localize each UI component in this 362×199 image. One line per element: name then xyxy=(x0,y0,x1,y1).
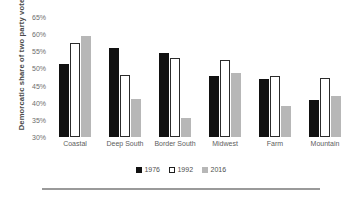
legend-item[interactable]: 1992 xyxy=(169,166,193,173)
legend-label: 2016 xyxy=(211,166,227,173)
bar-1992[interactable] xyxy=(70,43,80,137)
y-axis-tick-label: 50% xyxy=(20,65,46,72)
y-axis-tick-label: 35% xyxy=(20,116,46,123)
legend-label: 1976 xyxy=(144,166,160,173)
bar-groups xyxy=(50,17,350,137)
chart-legend: 197619922016 xyxy=(0,166,362,173)
bar-1992[interactable] xyxy=(270,76,280,137)
bar-1992[interactable] xyxy=(220,60,230,137)
x-axis-tick-label: Border South xyxy=(150,140,200,147)
legend-item[interactable]: 1976 xyxy=(136,166,160,173)
legend-item[interactable]: 2016 xyxy=(202,166,226,173)
plot-area: 30%35%40%45%50%55%60%65% xyxy=(50,17,350,137)
bar-1976[interactable] xyxy=(159,53,169,137)
legend-label: 1992 xyxy=(177,166,193,173)
bar-1976[interactable] xyxy=(59,64,69,137)
bar-2016[interactable] xyxy=(181,118,191,137)
chart-figure: Demorcatic share of two party vote 30%35… xyxy=(0,0,362,199)
bar-1992[interactable] xyxy=(170,58,180,137)
x-axis-tick-label: Midwest xyxy=(200,140,250,147)
bar-group xyxy=(50,17,100,137)
filled-gray-square-icon xyxy=(202,167,208,173)
bar-1976[interactable] xyxy=(209,76,219,137)
bar-1976[interactable] xyxy=(109,48,119,137)
y-axis-tick-label: 30% xyxy=(20,134,46,141)
bar-group xyxy=(250,17,300,137)
x-axis-tick-label: Farm xyxy=(250,140,300,147)
bar-2016[interactable] xyxy=(331,96,341,137)
filled-black-square-icon xyxy=(136,167,142,173)
bar-2016[interactable] xyxy=(131,99,141,137)
bar-group xyxy=(150,17,200,137)
x-axis-tick-label: Deep South xyxy=(100,140,150,147)
x-axis-tick-labels: CoastalDeep SouthBorder SouthMidwestFarm… xyxy=(50,140,350,147)
bar-2016[interactable] xyxy=(81,36,91,137)
bar-1992[interactable] xyxy=(120,75,130,137)
y-axis-tick-label: 45% xyxy=(20,82,46,89)
bar-group xyxy=(200,17,250,137)
y-axis-tick-label: 40% xyxy=(20,99,46,106)
bar-group xyxy=(100,17,150,137)
bar-1992[interactable] xyxy=(320,78,330,137)
bar-2016[interactable] xyxy=(281,106,291,137)
outlined-white-square-icon xyxy=(169,167,175,173)
y-axis-tick-label: 55% xyxy=(20,48,46,55)
bar-1976[interactable] xyxy=(309,100,319,137)
y-axis-tick-label: 60% xyxy=(20,31,46,38)
x-axis-tick-label: Coastal xyxy=(50,140,100,147)
x-axis-tick-label: Mountain xyxy=(300,140,350,147)
bar-1976[interactable] xyxy=(259,79,269,137)
bottom-divider xyxy=(42,188,320,190)
y-axis-tick-label: 65% xyxy=(20,14,46,21)
bar-2016[interactable] xyxy=(231,73,241,137)
bar-group xyxy=(300,17,350,137)
